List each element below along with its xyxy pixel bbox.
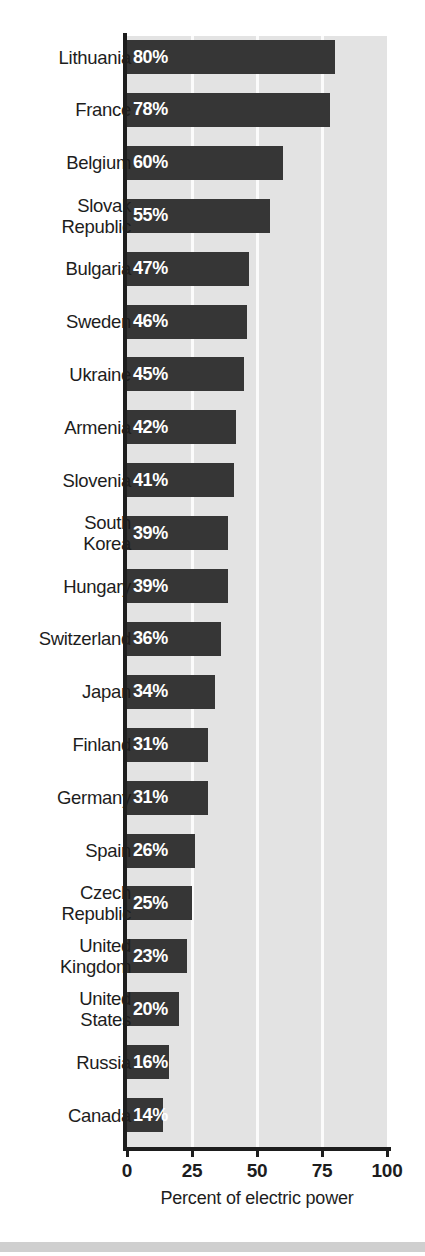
- x-tick-mark-0: [126, 1147, 129, 1157]
- category-label: Ukraine: [11, 364, 131, 385]
- bar-value-label: 80%: [127, 47, 168, 68]
- category-label: Russia: [11, 1052, 131, 1073]
- bar-value-label: 78%: [127, 99, 168, 120]
- category-label: Slovenia: [11, 470, 131, 491]
- bar-value-label: 31%: [127, 734, 168, 755]
- x-tick-label-50: 50: [247, 1160, 268, 1182]
- bar: 39%: [127, 516, 228, 550]
- bar: 80%: [127, 40, 335, 74]
- x-tick-label-25: 25: [182, 1160, 203, 1182]
- bar: 45%: [127, 357, 244, 391]
- bar-value-label: 34%: [127, 681, 168, 702]
- x-tick-label-100: 100: [372, 1160, 403, 1182]
- category-label: Lithuania: [11, 47, 131, 68]
- bar-value-label: 31%: [127, 787, 168, 808]
- bar-value-label: 55%: [127, 205, 168, 226]
- bar: 78%: [127, 93, 330, 127]
- category-label: Switzerland: [11, 628, 131, 649]
- bar: 20%: [127, 992, 179, 1026]
- category-label: Bulgaria: [11, 258, 131, 279]
- category-label: France: [11, 99, 131, 120]
- bar-value-label: 42%: [127, 417, 168, 438]
- bar: 41%: [127, 463, 234, 497]
- category-label: Canada: [11, 1105, 131, 1126]
- category-label: Slovak Republic: [11, 195, 131, 237]
- category-label: Belgium: [11, 152, 131, 173]
- bar: 36%: [127, 622, 221, 656]
- bar: 39%: [127, 569, 228, 603]
- bar-value-label: 14%: [127, 1105, 168, 1126]
- bar-value-label: 36%: [127, 628, 168, 649]
- bar-value-label: 26%: [127, 840, 168, 861]
- bar: 55%: [127, 199, 270, 233]
- bar-value-label: 41%: [127, 470, 168, 491]
- bar-value-label: 16%: [127, 1052, 168, 1073]
- bar-value-label: 47%: [127, 258, 168, 279]
- bar-value-label: 23%: [127, 946, 168, 967]
- bar: 14%: [127, 1098, 163, 1132]
- bar: 42%: [127, 410, 236, 444]
- category-label: Czech Republic: [11, 882, 131, 924]
- x-tick-mark-75: [321, 1147, 324, 1157]
- x-tick-mark-25: [191, 1147, 194, 1157]
- gridline-75: [321, 36, 324, 1147]
- bar-value-label: 46%: [127, 311, 168, 332]
- category-label: Spain: [11, 840, 131, 861]
- bar: 31%: [127, 781, 208, 815]
- bar-value-label: 25%: [127, 893, 168, 914]
- bar-value-label: 20%: [127, 999, 168, 1020]
- category-label: Armenia: [11, 417, 131, 438]
- bar-value-label: 45%: [127, 364, 168, 385]
- category-label: Japan: [11, 681, 131, 702]
- category-label: United States: [11, 988, 131, 1030]
- bar: 26%: [127, 834, 195, 868]
- bar: 31%: [127, 728, 208, 762]
- bottom-decorative-band: [0, 1242, 425, 1252]
- bar-value-label: 39%: [127, 523, 168, 544]
- bar-chart: 0255075100 80%Lithuania78%France60%Belgi…: [0, 0, 425, 1190]
- x-axis-title: Percent of electric power: [127, 1188, 387, 1209]
- category-label: Germany: [11, 787, 131, 808]
- category-label: Hungary: [11, 576, 131, 597]
- category-label: United Kingdom: [11, 935, 131, 977]
- bar: 16%: [127, 1045, 169, 1079]
- bar-value-label: 39%: [127, 576, 168, 597]
- category-label: Sweden: [11, 311, 131, 332]
- bar-value-label: 60%: [127, 152, 168, 173]
- bar: 60%: [127, 146, 283, 180]
- x-tick-label-0: 0: [122, 1160, 132, 1182]
- bar: 34%: [127, 675, 215, 709]
- bar: 25%: [127, 886, 192, 920]
- category-label: South Korea: [11, 512, 131, 554]
- figure-root: 0255075100 80%Lithuania78%France60%Belgi…: [0, 0, 425, 1256]
- x-tick-mark-50: [256, 1147, 259, 1157]
- bar: 46%: [127, 305, 247, 339]
- x-tick-mark-100: [386, 1147, 389, 1157]
- bar: 47%: [127, 252, 249, 286]
- bar: 23%: [127, 939, 187, 973]
- x-tick-label-75: 75: [312, 1160, 333, 1182]
- category-label: Finland: [11, 734, 131, 755]
